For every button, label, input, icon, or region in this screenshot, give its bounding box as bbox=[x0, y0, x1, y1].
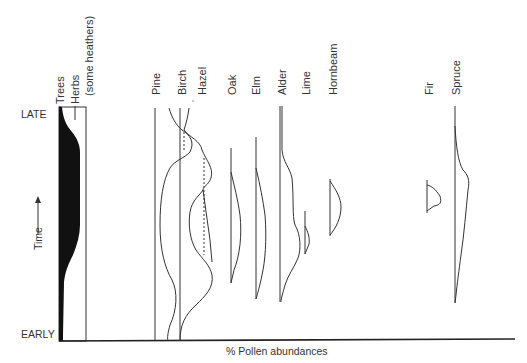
label-early: EARLY bbox=[21, 328, 55, 340]
alder-curve bbox=[281, 106, 300, 302]
spruce-curve bbox=[455, 126, 469, 303]
x-axis-label: % Pollen abundances bbox=[226, 345, 328, 357]
x-axis-baseline bbox=[59, 339, 515, 341]
lime-curve bbox=[305, 226, 309, 254]
hornbeam-curve bbox=[330, 181, 341, 235]
label-fir: Fir bbox=[423, 82, 435, 95]
elm-curve bbox=[256, 168, 266, 299]
label-oak: Oak bbox=[226, 74, 238, 95]
label-late: LATE bbox=[21, 108, 46, 120]
oak-curve bbox=[231, 172, 241, 283]
label-trees: Trees bbox=[54, 76, 66, 104]
label-birch: Birch bbox=[176, 70, 188, 95]
fir-curve bbox=[427, 185, 441, 211]
label-lime: Lime bbox=[300, 71, 312, 95]
birch-curve bbox=[160, 108, 192, 341]
trees-silhouette bbox=[59, 107, 80, 341]
label-spruce: Spruce bbox=[450, 60, 462, 95]
pollen-diagram: Trees Herbs (some heathers) Pine Birch H… bbox=[0, 0, 527, 363]
label-elm: Elm bbox=[250, 76, 262, 95]
speck-mark bbox=[192, 100, 193, 101]
label-pine: Pine bbox=[150, 73, 162, 95]
label-herbs-note: (some heathers) bbox=[83, 16, 95, 96]
label-herbs: Herbs bbox=[69, 74, 81, 104]
label-hornbeam: Hornbeam bbox=[327, 44, 339, 95]
label-hazel: Hazel bbox=[196, 67, 208, 95]
label-alder: Alder bbox=[276, 69, 288, 95]
time-arrow-icon bbox=[35, 196, 41, 203]
